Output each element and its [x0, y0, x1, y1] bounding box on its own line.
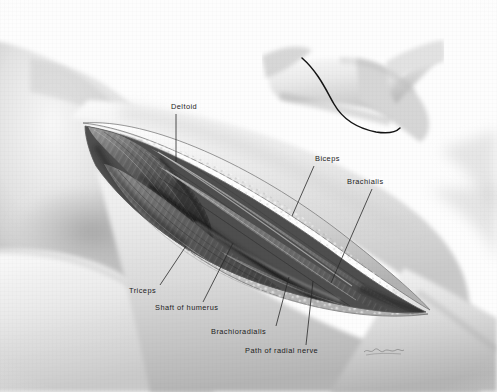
label-brachialis: Brachialis: [347, 178, 384, 185]
label-shaft-of-humerus: Shaft of humerus: [155, 304, 218, 311]
label-brachioradialis: Brachioradialis: [211, 328, 266, 335]
illustration-plate: DeltoidBicepsBrachialisTricepsShaft of h…: [0, 0, 497, 392]
label-path-of-radial-nerve: Path of radial nerve: [245, 347, 318, 354]
label-deltoid: Deltoid: [171, 103, 197, 110]
label-biceps: Biceps: [315, 155, 340, 162]
label-triceps: Triceps: [129, 287, 156, 294]
